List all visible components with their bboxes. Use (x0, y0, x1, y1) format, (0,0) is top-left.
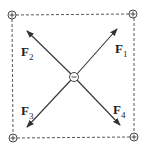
arrow-f2 (27, 31, 71, 74)
arrow-f1 (77, 29, 117, 74)
force-diagram (0, 0, 151, 152)
plus-charge-icon (130, 133, 138, 141)
plus-charge-icon (8, 11, 16, 19)
label-f1: F1 (115, 42, 127, 59)
plus-charge-icon (129, 10, 137, 18)
minus-charge-icon (70, 73, 79, 82)
label-f4: F4 (113, 103, 125, 120)
label-f3: F3 (21, 104, 33, 121)
plus-charge-icon (9, 134, 17, 142)
label-f2: F2 (21, 45, 33, 62)
arrow-f3 (27, 80, 71, 127)
